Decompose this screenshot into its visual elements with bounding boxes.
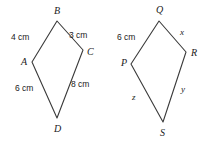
side-ad-length: 6 cm	[15, 84, 33, 93]
vertex-label-q: Q	[156, 5, 163, 15]
vertex-label-r: R	[191, 48, 197, 58]
side-ps-length: z	[132, 93, 136, 102]
side-ab-length: 4 cm	[11, 33, 29, 42]
vertex-label-d: D	[54, 124, 61, 134]
geometry-figure-canvas: B C D A 4 cm 3 cm 6 cm 8 cm Q R S P 6 cm…	[0, 0, 223, 146]
vertex-label-c: C	[87, 47, 94, 57]
vertex-label-b: B	[54, 6, 60, 16]
side-cd-length: 8 cm	[71, 80, 89, 89]
side-qr-length: x	[180, 28, 184, 37]
vertex-label-p: P	[121, 58, 127, 68]
side-bc-length: 3 cm	[69, 31, 87, 40]
vertex-label-s: S	[160, 128, 165, 138]
geometry-diagram-svg	[0, 0, 223, 146]
vertex-label-a: A	[21, 57, 27, 67]
side-pq-length: 6 cm	[117, 33, 135, 42]
side-rs-length: y	[181, 85, 185, 94]
quadrilateral-pqrs-outline	[131, 21, 186, 122]
